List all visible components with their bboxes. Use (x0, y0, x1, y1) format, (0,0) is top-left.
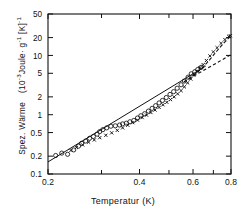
data-point-cross (176, 92, 179, 95)
data-point-open-circle (65, 152, 69, 156)
x-tick-label: 0.4 (134, 177, 146, 187)
chart-figure: 0.10.20.51251020500.20.40.60.8 Spez. Wär… (0, 0, 246, 218)
data-point-open-circle (179, 83, 183, 87)
data-point-open-circle (160, 98, 164, 102)
data-point-cross (157, 106, 160, 109)
data-point-cross (93, 138, 96, 141)
data-point-open-circle (109, 124, 113, 128)
data-point-cross (179, 89, 182, 92)
y-tick-label: 20 (33, 34, 43, 43)
data-point-cross (219, 42, 222, 45)
y-axis-unit-bracket: [K] (18, 23, 27, 37)
data-point-cross (161, 103, 164, 106)
data-point-cross (169, 98, 172, 101)
y-tick-label: 0.1 (31, 170, 43, 179)
data-point-cross (81, 143, 84, 146)
data-point-cross (208, 54, 211, 57)
data-point-cross (173, 95, 176, 98)
data-point-open-circle (113, 124, 117, 128)
y-tick-label: 50 (33, 10, 43, 19)
data-point-cross (116, 129, 119, 132)
y-axis-unit-exp2: -1 (15, 36, 22, 42)
y-tick-label: 2 (37, 93, 42, 102)
data-point-open-circle (172, 90, 176, 94)
x-tick-label: 0.2 (42, 177, 54, 187)
x-axis-title: Temperatur (K) (0, 196, 246, 206)
data-point-cross (104, 134, 107, 137)
data-point-cross (215, 46, 218, 49)
y-axis-title: Spez. Wärme(10-3Joule· g-1 [K]-1 (15, 11, 27, 161)
y-axis-title-name: Spez. Wärme (18, 102, 27, 155)
x-tick-label: 0.8 (225, 177, 237, 187)
y-axis-unit-open: (10 (18, 80, 27, 93)
data-point-cross (121, 126, 124, 129)
y-axis-unit-mid: Joule· g (18, 43, 27, 75)
data-point-open-circle (175, 86, 179, 90)
data-point-cross (205, 59, 208, 62)
data-point-cross (110, 131, 113, 134)
data-point-cross (186, 81, 189, 84)
data-point-cross (183, 85, 186, 88)
x-tick-label: 0.6 (187, 177, 199, 187)
plot-area: 0.10.20.51251020500.20.40.60.8 (0, 0, 246, 218)
y-tick-label: 1 (37, 111, 42, 120)
data-point-cross (165, 101, 168, 104)
data-point-cross (98, 136, 101, 139)
data-point-cross (202, 63, 205, 66)
data-point-cross (212, 50, 215, 53)
y-axis-unit-exp1: -3 (15, 74, 22, 80)
y-tick-label: 10 (33, 52, 43, 61)
y-tick-label: 0.2 (31, 152, 43, 161)
y-tick-label: 5 (37, 69, 42, 78)
y-tick-label: 0.5 (31, 129, 43, 138)
y-axis-unit-exp3: -1 (15, 17, 22, 23)
data-point-cross (223, 38, 226, 41)
data-point-open-circle (164, 95, 168, 99)
